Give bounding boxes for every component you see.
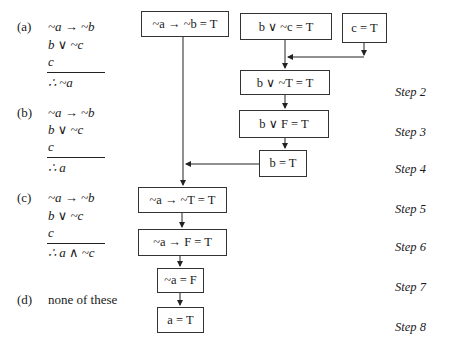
box-step3: b ∨ F = T [239,110,329,138]
step-label-4: Step 4 [395,162,426,177]
flow-connectors [0,0,450,346]
box-step7: ~a = F [157,268,204,293]
box-step4: b = T [259,150,307,177]
box-premise2: b ∨ ~c = T [240,13,332,40]
box-step6: ~a → F = T [138,229,227,256]
step-label-3: Step 3 [395,125,426,140]
step-label-7: Step 7 [395,280,426,295]
step-label-2: Step 2 [395,85,426,100]
box-premise3: c = T [342,13,387,43]
box-premise1: ~a → ~b = T [141,11,229,37]
box-step8: a = T [157,307,204,333]
step-label-8: Step 8 [395,320,426,335]
step-label-6: Step 6 [395,240,426,255]
box-step2: b ∨ ~T = T [240,70,330,95]
step-label-5: Step 5 [395,202,426,217]
box-step5: ~a → ~T = T [138,187,227,213]
